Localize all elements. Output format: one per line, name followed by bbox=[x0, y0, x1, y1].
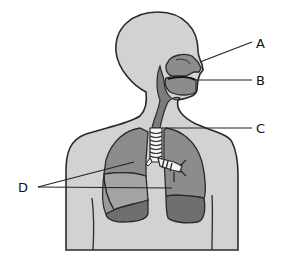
oral-cavity bbox=[165, 77, 196, 95]
respiratory-system-diagram: A B C D bbox=[0, 0, 284, 261]
left-lung-lower-lobe bbox=[166, 195, 205, 223]
leader-line-a bbox=[200, 42, 252, 62]
label-a: A bbox=[256, 36, 265, 51]
label-b: B bbox=[256, 73, 265, 88]
label-c: C bbox=[256, 121, 265, 136]
label-d: D bbox=[18, 180, 28, 195]
